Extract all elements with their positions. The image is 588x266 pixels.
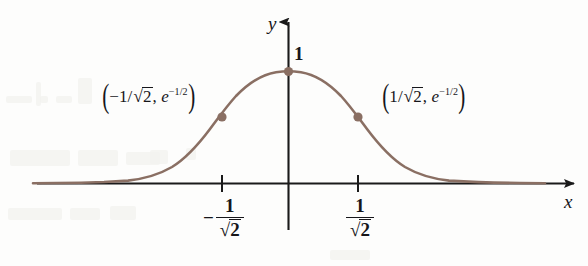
tick-label-sign: − [203,207,214,229]
annotation-x-numerator: 1/ [389,87,402,106]
annotation-separator: , [153,87,162,106]
annotation-radicand: 2 [142,87,153,105]
annotation-radicand: 2 [412,87,423,105]
annotation-close-paren: ) [188,82,195,110]
x-tick-label-left: − 1 √2 [203,196,244,240]
x-axis-label: x [564,192,572,211]
annotation-sign: − [109,87,119,106]
annotation-close-paren: ) [458,82,465,110]
y-intercept-value: 1 [294,44,304,63]
right-inflection-point-dot [353,112,362,121]
gaussian-curve-figure: y x 1 ( −1/√2, e−1/2 ) ( 1/√2, e−1/2 ) −… [0,0,588,266]
tick-label-numerator: 1 [352,196,368,216]
right-point-annotation: ( 1/√2, e−1/2 ) [380,82,467,110]
y-axis-label: y [268,14,276,33]
maximum-point-dot [284,67,293,76]
tick-label-radicand: 2 [359,219,371,240]
annotation-base: e [161,87,169,106]
annotation-exponent: −1/2 [169,86,188,97]
tick-label-radicand: 2 [229,219,241,240]
annotation-separator: , [423,87,432,106]
tick-label-numerator: 1 [222,196,238,216]
annotation-x-numerator: 1/ [119,87,132,106]
annotation-open-paren: ( [102,82,109,110]
left-point-annotation: ( −1/√2, e−1/2 ) [100,82,197,110]
plot-canvas [0,0,588,266]
annotation-open-paren: ( [382,82,389,110]
annotation-exponent: −1/2 [439,86,458,97]
left-inflection-point-dot [217,112,226,121]
x-tick-label-right: 1 √2 [346,196,374,240]
